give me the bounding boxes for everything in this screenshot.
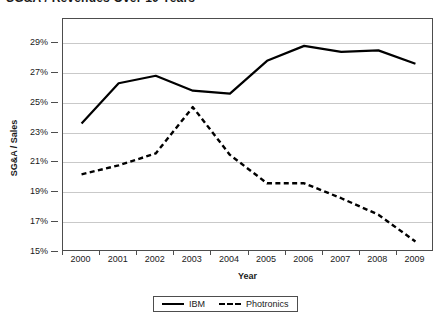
y-tick-label: 23% <box>30 127 48 137</box>
y-tick-label: 17% <box>30 216 48 226</box>
x-tick-mark <box>136 250 137 255</box>
x-tick-mark <box>210 250 211 255</box>
x-tick-mark <box>359 250 360 255</box>
y-tick-label: 25% <box>30 97 48 107</box>
legend-item-ibm: IBM <box>162 299 205 309</box>
legend-swatch-dashed-icon <box>219 303 241 305</box>
y-tick-label: 15% <box>30 246 48 256</box>
x-tick-mark <box>248 250 249 255</box>
x-tick-mark <box>173 250 174 255</box>
y-tick-mark <box>51 102 58 103</box>
y-tick-mark <box>51 161 58 162</box>
y-axis-title: SG&A / Sales <box>9 103 19 193</box>
chart-container: SG&A / Revenues Over 10 Years 29%27%25%2… <box>0 0 448 321</box>
series-line-ibm <box>82 46 416 124</box>
x-tick-label: 2005 <box>256 254 276 264</box>
y-tick-label: 29% <box>30 37 48 47</box>
chart-title: SG&A / Revenues Over 10 Years <box>6 0 195 5</box>
x-tick-label: 2009 <box>404 254 424 264</box>
y-tick-label: 27% <box>30 67 48 77</box>
x-tick-label: 2004 <box>219 254 239 264</box>
x-tick-mark <box>322 250 323 255</box>
legend-label: Photronics <box>246 299 289 309</box>
x-tick-mark <box>396 250 397 255</box>
x-tick-mark <box>62 250 63 255</box>
x-axis-title: Year <box>62 271 433 281</box>
x-tick-label: 2008 <box>367 254 387 264</box>
x-tick-label: 2000 <box>71 254 91 264</box>
y-tick-mark <box>51 72 58 73</box>
y-tick-label: 21% <box>30 156 48 166</box>
y-tick-mark <box>51 191 58 192</box>
x-tick-label: 2006 <box>293 254 313 264</box>
x-tick-label: 2002 <box>145 254 165 264</box>
x-tick-label: 2001 <box>108 254 128 264</box>
legend-label: IBM <box>189 299 205 309</box>
y-tick-label: 19% <box>30 186 48 196</box>
series-line-photronics <box>82 107 416 241</box>
x-tick-label: 2007 <box>330 254 350 264</box>
x-tick-mark <box>285 250 286 255</box>
x-tick-mark <box>99 250 100 255</box>
plot-area <box>62 18 433 251</box>
x-tick-label: 2003 <box>182 254 202 264</box>
chart-legend: IBM Photronics <box>153 296 298 312</box>
y-tick-mark <box>51 132 58 133</box>
legend-swatch-solid-icon <box>162 303 184 305</box>
legend-item-photronics: Photronics <box>219 299 289 309</box>
y-tick-mark <box>51 251 58 252</box>
y-tick-mark <box>51 221 58 222</box>
x-axis-labels: 2000200120022003200420052006200720082009 <box>62 254 433 270</box>
series-lines <box>63 19 434 252</box>
y-tick-mark <box>51 42 58 43</box>
